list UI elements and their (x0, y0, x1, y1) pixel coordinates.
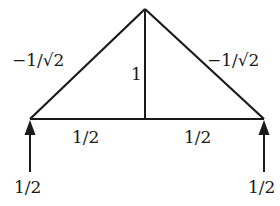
left-reaction-label: 1/2 (14, 177, 41, 197)
left-reaction-arrow-icon (25, 120, 36, 172)
right-diagonal-label: −1/√2 (207, 50, 259, 70)
right-reaction-label: 1/2 (248, 177, 275, 197)
truss-diagram: −1/√2 −1/√2 1 1/2 1/2 1/2 1/2 (0, 0, 280, 206)
left-diagonal-label: −1/√2 (12, 50, 64, 70)
right-reaction-arrow-icon (259, 120, 270, 172)
vertical-member-label: 1 (131, 64, 142, 84)
bottom-left-label: 1/2 (72, 127, 99, 147)
bottom-right-label: 1/2 (184, 127, 211, 147)
